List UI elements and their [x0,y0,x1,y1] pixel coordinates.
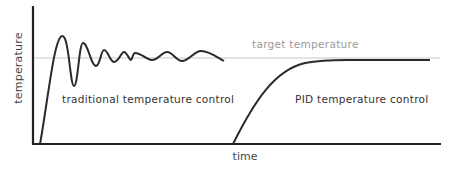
pid-control-label: PID temperature control [295,93,428,105]
x-axis-label: time [233,150,258,163]
traditional-control-label: traditional temperature control [62,93,234,105]
target-temperature-label: target temperature [252,38,359,50]
traditional-control-curve [40,36,224,144]
pid-vs-traditional-diagram: temperature time target temperature trad… [0,0,451,173]
diagram-graphic [0,0,451,173]
y-axis-label: temperature [12,32,25,103]
